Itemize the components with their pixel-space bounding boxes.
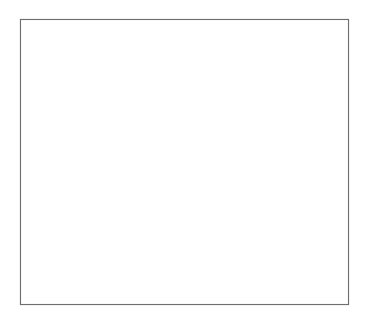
map-canvas: [0, 0, 367, 321]
range-map-figure: Outline map showing state and national b…: [0, 0, 367, 321]
map-frame-outline: [21, 20, 349, 305]
